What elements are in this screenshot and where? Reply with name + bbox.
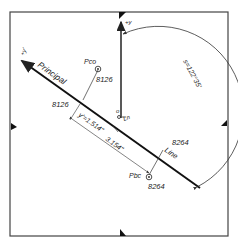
angle-label: s=122°35' [182, 58, 203, 89]
origin-suffix: Ln [122, 114, 131, 122]
fiducial-marks [11, 12, 227, 236]
photo-frame [10, 12, 228, 236]
origin-point [118, 116, 121, 119]
pbc-name: Pbc [129, 172, 142, 179]
fiducial-bottom-icon [120, 229, 126, 236]
y-prime-label: +y' [19, 46, 28, 56]
fiducial-right-icon [221, 120, 227, 126]
principal-line-diagram: +y +y' Principal Line o Ln s=122°35' Pco… [0, 0, 238, 246]
span-dimline [72, 119, 149, 173]
pco-foot-value: 8126 [52, 100, 70, 109]
fiducial-left-icon [11, 123, 17, 130]
pco-name: Pco [84, 58, 96, 65]
origin-label: o [116, 108, 120, 114]
pbc-foot-value: 8264 [172, 138, 189, 147]
pbc-value: 8264 [148, 182, 165, 191]
point-pbc: Pbc 8264 8264 [129, 138, 189, 191]
y-axis-label: +y [125, 19, 133, 25]
line-label: Line [163, 145, 180, 161]
angle-arc [123, 26, 238, 187]
y-prime-offset-dimline [70, 104, 80, 120]
pco-value: 8126 [96, 75, 114, 84]
y-prime-offset-label: y'=1.514" [76, 111, 105, 135]
fiducial-top-icon [119, 12, 126, 19]
